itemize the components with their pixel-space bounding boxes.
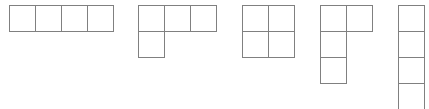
- square-cell: [320, 57, 347, 84]
- square-cell: [398, 57, 425, 84]
- square-cell: [268, 5, 295, 32]
- square-cell: [164, 5, 191, 32]
- square-cell: [242, 5, 269, 32]
- square-cell: [9, 5, 36, 32]
- square-cell: [320, 5, 347, 32]
- square-cell: [190, 5, 217, 32]
- square-cell: [35, 5, 62, 32]
- square-cell: [138, 31, 165, 58]
- square-cell: [138, 5, 165, 32]
- square-cell: [242, 31, 269, 58]
- square-cell: [61, 5, 88, 32]
- square-cell: [268, 31, 295, 58]
- square-cell: [398, 5, 425, 32]
- square-cell: [320, 31, 347, 58]
- square-cell: [346, 5, 373, 32]
- square-cell: [398, 31, 425, 58]
- square-cell: [87, 5, 114, 32]
- square-cell: [398, 83, 425, 109]
